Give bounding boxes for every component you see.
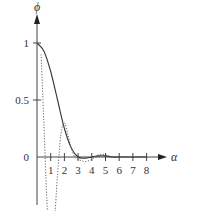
x-tick-label: 3: [75, 164, 81, 176]
chart: ϕα1234567810.50−0.5: [0, 0, 217, 211]
series-solid: [37, 43, 147, 158]
x-axis-arrow-icon: [158, 154, 167, 160]
x-tick-label: 6: [116, 164, 122, 176]
y-tick-label: 1: [24, 37, 30, 49]
x-tick-label: 2: [62, 164, 68, 176]
y-tick-label: 0: [24, 151, 30, 163]
x-tick-label: 5: [103, 164, 109, 176]
x-tick-label: 1: [48, 164, 54, 176]
x-tick-label: 7: [130, 164, 136, 176]
y-axis-arrow-icon: [34, 14, 40, 24]
x-tick-label: 4: [89, 164, 95, 176]
x-axis-title: α: [171, 150, 178, 164]
y-tick-label: 0.5: [15, 94, 29, 106]
y-axis-title: ϕ: [34, 0, 40, 14]
x-tick-label: 8: [144, 164, 150, 176]
y-tick-label: −0.5: [9, 208, 29, 211]
